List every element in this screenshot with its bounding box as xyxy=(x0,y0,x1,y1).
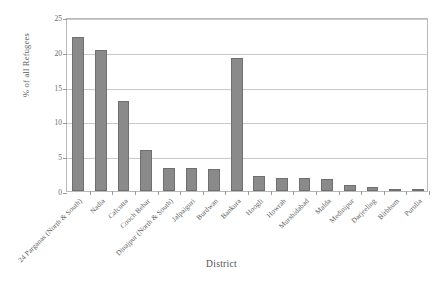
bar-column xyxy=(367,17,379,191)
bar-column xyxy=(253,17,265,191)
bar xyxy=(140,150,152,191)
bar-column xyxy=(72,17,84,191)
x-axis-tick xyxy=(271,191,272,195)
x-axis-tick xyxy=(361,191,362,195)
x-axis-tick xyxy=(316,191,317,195)
x-axis-tick xyxy=(112,191,113,195)
bar xyxy=(231,58,243,191)
x-axis-tick xyxy=(90,191,91,195)
bar-column xyxy=(412,17,424,191)
bar xyxy=(208,169,220,191)
bar-column xyxy=(118,17,130,191)
y-axis-tick-label: 20 xyxy=(40,49,62,58)
y-axis-tick-label: 5 xyxy=(40,153,62,162)
x-axis-tick xyxy=(429,191,430,195)
bar-column xyxy=(276,17,288,191)
bar xyxy=(299,178,311,191)
x-axis-tick xyxy=(180,191,181,195)
bar xyxy=(367,187,379,191)
y-axis-tick-label: 0 xyxy=(40,188,62,197)
bar xyxy=(118,101,130,191)
x-axis-tick xyxy=(135,191,136,195)
bar xyxy=(389,189,401,191)
y-axis-title: % of all Refugees xyxy=(21,0,31,135)
bar-column xyxy=(208,17,220,191)
bar xyxy=(95,50,107,191)
y-axis-tick-label: 15 xyxy=(40,84,62,93)
bar-chart: % of all Refugees 0510152025 24 Parganas… xyxy=(0,0,443,295)
bar-column xyxy=(344,17,356,191)
x-axis-tick xyxy=(158,191,159,195)
bar-column xyxy=(389,17,401,191)
y-axis-tick xyxy=(63,193,67,194)
plot-area xyxy=(66,18,428,192)
x-axis-tick xyxy=(406,191,407,195)
x-axis-tick xyxy=(225,191,226,195)
bar-column xyxy=(186,17,198,191)
x-axis-tick xyxy=(248,191,249,195)
x-axis-tick xyxy=(293,191,294,195)
x-axis-tick xyxy=(339,191,340,195)
bar xyxy=(276,178,288,191)
bar xyxy=(321,179,333,191)
y-axis-tick-label: 10 xyxy=(40,118,62,127)
bar-column xyxy=(231,17,243,191)
bar-column xyxy=(95,17,107,191)
x-axis-tick xyxy=(203,191,204,195)
y-axis-tick-label: 25 xyxy=(40,14,62,23)
bar-column xyxy=(163,17,175,191)
bar xyxy=(186,168,198,191)
bar xyxy=(412,189,424,191)
bar xyxy=(163,168,175,191)
bar xyxy=(72,37,84,192)
bar-column xyxy=(140,17,152,191)
bar xyxy=(344,185,356,191)
bar-column xyxy=(321,17,333,191)
x-axis-title: District xyxy=(0,259,443,269)
bar-series xyxy=(67,19,427,191)
x-axis-tick xyxy=(384,191,385,195)
bar xyxy=(253,176,265,191)
bar-column xyxy=(299,17,311,191)
